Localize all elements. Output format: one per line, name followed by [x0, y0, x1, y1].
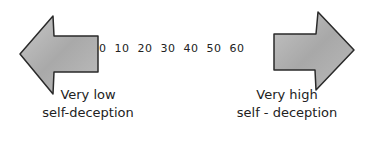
self-deception-scale: 0 10 20 30 40 50 60	[99, 42, 253, 55]
scale-tick: 40	[184, 42, 199, 55]
low-label-line2: self-deception	[28, 104, 148, 122]
high-self-deception-label: Very high self - deception	[222, 86, 352, 122]
high-label-line2: self - deception	[222, 104, 352, 122]
scale-tick: 20	[138, 42, 153, 55]
scale-tick: 30	[161, 42, 176, 55]
scale-tick: 60	[230, 42, 245, 55]
high-label-line1: Very high	[222, 86, 352, 104]
right-arrow-icon	[272, 10, 356, 94]
scale-tick: 0	[99, 42, 107, 55]
left-arrow-icon	[18, 14, 100, 96]
scale-tick: 10	[115, 42, 130, 55]
low-self-deception-label: Very low self-deception	[28, 86, 148, 122]
low-label-line1: Very low	[28, 86, 148, 104]
scale-tick: 50	[207, 42, 222, 55]
